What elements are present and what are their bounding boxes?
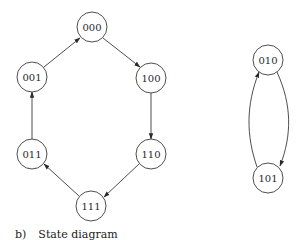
edge-000-to-100: [103, 38, 140, 67]
edge-110-to-111: [104, 164, 139, 197]
state-node-100: 100: [136, 63, 166, 93]
state-node-110: 110: [136, 139, 166, 169]
state-node-101: 101: [253, 163, 283, 193]
state-label: 000: [82, 22, 101, 33]
state-node-001: 001: [17, 62, 47, 92]
state-label: 010: [258, 55, 277, 66]
state-node-000: 000: [77, 12, 107, 42]
figure-caption: b)State diagram: [15, 228, 118, 240]
state-label: 001: [22, 72, 41, 83]
state-label: 101: [258, 173, 277, 184]
state-label: 100: [141, 73, 160, 84]
caption-label: b): [15, 228, 26, 240]
edge-111-to-011: [44, 164, 79, 196]
edge-001-to-000: [44, 38, 80, 67]
caption-title: State diagram: [38, 228, 117, 240]
state-label: 011: [22, 149, 41, 160]
state-node-011: 011: [17, 139, 47, 169]
state-label: 110: [141, 149, 160, 160]
state-label: 111: [81, 201, 100, 212]
state-node-010: 010: [253, 45, 283, 75]
state-diagram: 000 001 100 011 110 111 010 101: [0, 0, 300, 240]
state-node-111: 111: [76, 191, 106, 221]
edge-101-to-010: [249, 72, 259, 167]
edge-010-to-101: [277, 72, 289, 166]
